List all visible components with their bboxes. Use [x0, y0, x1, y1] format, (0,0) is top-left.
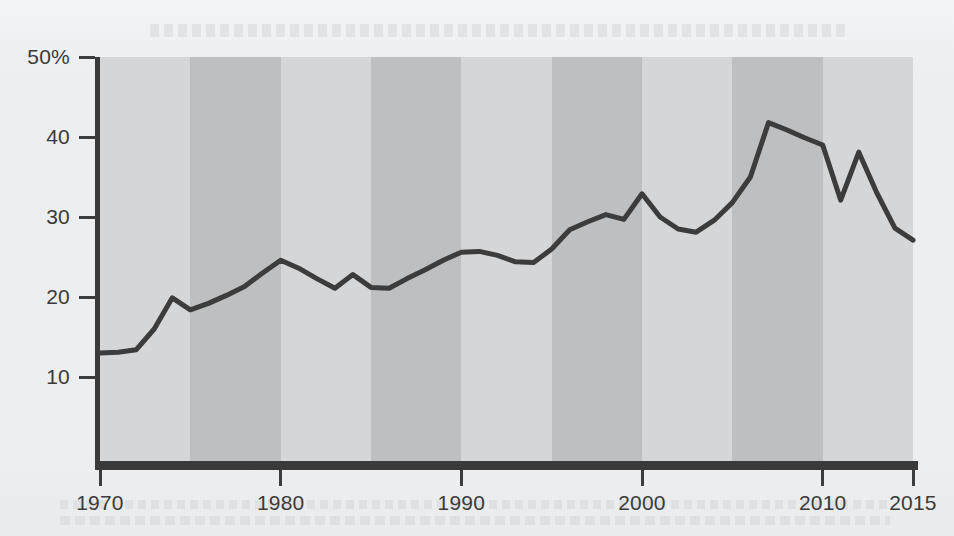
data-series-line [0, 0, 954, 536]
line-chart: 50%40302010 197019801990200020102015 [0, 0, 954, 536]
